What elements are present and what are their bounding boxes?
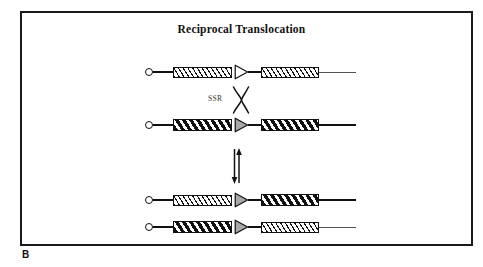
backbone-segment-right <box>319 124 356 126</box>
telomere-open-circle-icon <box>145 196 153 204</box>
backbone-segment-mid <box>248 124 261 126</box>
arm-left-hatched-box <box>173 221 232 233</box>
backbone-segment-right <box>319 72 356 73</box>
chromosome-row-substrate-2 <box>0 114 483 136</box>
figure-panel-b: Reciprocal Translocation SSR <box>0 0 483 267</box>
chromosome-row-substrate-1 <box>0 61 483 83</box>
arm-left-hatched-box <box>173 195 232 206</box>
telomere-open-circle-icon <box>145 121 153 129</box>
arm-right-hatched-box <box>261 194 319 206</box>
panel-letter: B <box>22 249 29 260</box>
backbone-segment-left <box>153 199 173 200</box>
recombination-site-triangle-icon <box>234 64 249 80</box>
arm-right-hatched-box <box>261 119 319 131</box>
recombination-site-triangle-icon <box>234 192 249 208</box>
recombination-site-triangle-icon <box>234 117 249 133</box>
backbone-segment-mid <box>248 199 261 201</box>
ssr-label: SSR <box>208 94 222 103</box>
backbone-segment-right <box>319 227 356 228</box>
backbone-segment-left <box>153 71 173 72</box>
arm-left-hatched-box <box>173 119 232 131</box>
telomere-open-circle-icon <box>145 223 153 231</box>
backbone-segment-left <box>153 226 173 228</box>
backbone-segment-left <box>153 124 173 126</box>
arm-right-hatched-box <box>261 67 319 78</box>
arm-right-hatched-box <box>261 222 319 233</box>
telomere-open-circle-icon <box>145 68 153 76</box>
arm-left-hatched-box <box>173 67 232 78</box>
double-arrow-icon <box>228 148 246 188</box>
chromosome-row-product-1 <box>0 189 483 211</box>
chromosome-row-product-2 <box>0 216 483 238</box>
backbone-segment-mid <box>248 226 261 227</box>
backbone-segment-right <box>319 199 356 201</box>
backbone-segment-mid <box>248 71 261 72</box>
recombination-site-triangle-icon <box>234 219 249 235</box>
figure-title: Reciprocal Translocation <box>0 23 483 35</box>
